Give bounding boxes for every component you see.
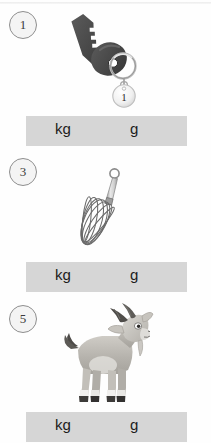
question-number-label: 5 — [20, 311, 27, 326]
question-block-5: 5 — [0, 296, 211, 443]
unit-option-g[interactable]: g — [130, 266, 138, 283]
unit-option-kg[interactable]: kg — [55, 416, 71, 433]
unit-option-g[interactable]: g — [130, 120, 138, 137]
answer-bar-5[interactable]: kg g — [26, 412, 187, 442]
question-number-badge-5: 5 — [9, 305, 37, 333]
unit-option-kg[interactable]: kg — [55, 266, 71, 283]
question-block-3: 3 — [0, 150, 211, 296]
question-number-badge-1: 1 — [9, 11, 37, 39]
key-icon: 1 — [62, 6, 152, 106]
unit-option-g[interactable]: g — [130, 416, 138, 433]
question-number-label: 1 — [20, 17, 27, 32]
whisk-icon — [66, 166, 136, 261]
goat-icon — [58, 302, 153, 410]
key-tag-number: 1 — [121, 91, 127, 103]
question-number-badge-3: 3 — [9, 158, 37, 186]
question-block-1: 1 — [0, 0, 211, 150]
unit-option-kg[interactable]: kg — [55, 120, 71, 137]
question-number-label: 3 — [20, 164, 27, 179]
answer-bar-1[interactable]: kg g — [26, 116, 187, 146]
answer-bar-3[interactable]: kg g — [26, 262, 187, 292]
worksheet-page: 1 — [0, 0, 211, 443]
